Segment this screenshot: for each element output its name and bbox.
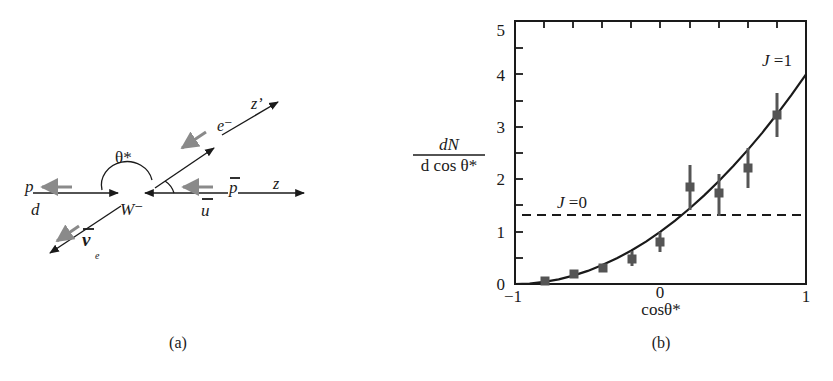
y-tick-labels: 01 23 45 [497,21,506,294]
w-boson-label: W⁻ [120,200,143,219]
electron-arrow [155,148,214,188]
z-axis-label: z [272,175,280,192]
j0-label: J =0 [557,193,587,212]
electron-grey-arrow [182,132,206,148]
d-quark-label: d [31,200,40,219]
complement-angle-arc [165,181,174,193]
theta-label: θ* [115,148,132,167]
svg-text:4: 4 [497,66,506,85]
j1-label: J =1 [762,51,792,70]
data-point [686,165,694,210]
electron-label: e⁻ [217,117,233,134]
data-point [570,270,578,278]
anti-u-label: u [201,201,210,220]
y-axis-ticks [515,48,523,258]
x-axis-label: cosθ* [641,300,680,319]
antineutrino-label: ν [82,229,91,250]
svg-text:1: 1 [802,287,811,306]
panel-b-angular-distribution-chart: 01 23 45 −101 cosθ* dN d cos θ* J =0 J =… [413,21,810,352]
z-prime-label: z’ [250,95,263,112]
data-point [541,277,549,285]
data-point [599,264,607,272]
svg-text:1: 1 [497,223,506,242]
panel-a-caption: (a) [169,334,187,352]
data-points [541,93,781,285]
svg-text:5: 5 [497,21,506,40]
data-point [715,174,723,216]
panel-b-caption: (b) [652,334,671,352]
panel-a-kinematics-diagram: θ* e⁻ z’ p d W⁻ p z u ν e (a) [24,95,304,352]
x-axis-top-ticks [544,21,777,28]
svg-text:2: 2 [497,170,506,189]
data-point [628,251,636,266]
y-axis-label-numerator: dN [439,135,461,154]
proton-label: p [24,177,34,196]
antineutrino-grey-arrow [57,226,79,241]
figure: θ* e⁻ z’ p d W⁻ p z u ν e (a) [0,0,833,381]
antiproton-label: p [228,178,238,197]
j1-curve [515,74,806,284]
svg-text:3: 3 [497,118,506,137]
antineutrino-subscript: e [95,250,100,261]
y-axis-label-denominator: d cos θ* [421,156,477,175]
data-point [773,93,781,137]
svg-text:−1: −1 [504,287,522,306]
